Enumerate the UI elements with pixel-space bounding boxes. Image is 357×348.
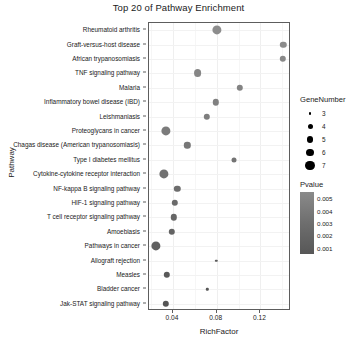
gridline-vertical [217,23,218,309]
gene-number-legend-item: 6 [300,146,346,159]
pvalue-legend-label: 0.003 [317,220,332,227]
gene-number-legend-label: 5 [322,136,326,143]
gene-number-legend-item: 5 [300,133,346,146]
y-axis-tick-label: Type I diabetes mellitus [73,155,140,162]
x-axis-tick-label: 0.04 [166,314,179,321]
y-axis-tick-label: T cell receptor signaling pathway [47,213,140,220]
gene-number-legend-item: 3 [300,107,346,120]
y-axis-tick-mark [143,216,146,217]
gridline-vertical-minor [195,23,196,309]
gridline-horizontal [149,73,289,74]
gridline-horizontal [149,189,289,190]
y-axis-tick-mark [143,230,146,231]
pvalue-legend-label: 0.002 [317,232,332,239]
data-point [163,301,169,307]
data-point [164,272,170,278]
data-point [231,157,236,162]
gene-number-legend-dot [300,161,320,170]
y-axis-tick-label: Jak-STAT signaling pathway [60,299,140,306]
data-point [212,99,218,105]
y-axis-tick-label: Cytokine-cytokine receptor interaction [33,170,140,177]
y-axis-tick-mark [143,259,146,260]
y-axis-tick-label: HIF-1 signaling pathway [71,199,140,206]
x-axis-title: RichFactor [148,327,290,336]
y-axis-labels: Rheumatoid arthritisGraft-versus-host di… [0,22,146,310]
gridline-horizontal [149,261,289,262]
data-point [204,113,210,119]
y-axis-tick-mark [143,144,146,145]
gene-number-legend-dot [300,124,320,129]
y-axis-tick-mark [143,130,146,131]
y-axis-tick-mark [143,173,146,174]
gridline-horizontal [149,102,289,103]
gridline-vertical-minor [282,23,283,309]
gridline-horizontal [149,160,289,161]
y-axis-tick-label: Inflammatory bowel disease (IBD) [44,98,140,105]
gridline-horizontal [149,289,289,290]
gridline-vertical-minor [151,23,152,309]
data-point [152,242,161,251]
gene-number-legend-dot [300,136,320,142]
gridline-vertical [260,23,261,309]
gene-number-legend-label: 7 [322,162,326,169]
pvalue-legend: Pvalue 0.0050.0040.0030.0020.001 [300,180,351,254]
plot-panel [148,22,290,310]
data-point [280,56,286,62]
y-axis-tick-label: Malaria [119,83,140,90]
x-axis-tick-mark [259,310,260,313]
y-axis-tick-label: Chagas disease (American trypanosomiasis… [13,141,140,148]
y-axis-tick-mark [143,288,146,289]
pvalue-legend-label: 0.001 [317,244,332,251]
data-point [174,185,180,191]
x-axis-tick-mark [172,310,173,313]
data-point [280,41,286,47]
y-axis-tick-mark [143,302,146,303]
pvalue-gradient-bar [300,192,314,254]
gene-number-legend-item: 7 [300,159,346,172]
x-axis-tick-mark [216,310,217,313]
gene-number-legend-item: 4 [300,120,346,133]
gridline-horizontal [149,174,289,175]
y-axis-tick-mark [143,158,146,159]
y-axis-tick-label: Rheumatoid arthritis [83,26,140,33]
y-axis-tick-label: African trypanosomiasis [72,55,140,62]
y-axis-tick-mark [143,29,146,30]
gridline-horizontal [149,88,289,89]
pvalue-legend-label: 0.004 [317,207,332,214]
y-axis-tick-mark [143,58,146,59]
gene-number-legend-label: 6 [322,149,326,156]
data-point [194,69,202,77]
data-point [169,229,175,235]
y-axis-tick-label: NF-kappa B signaling pathway [53,184,140,191]
gridline-horizontal [149,203,289,204]
y-axis-tick-label: Measles [116,271,140,278]
y-axis-tick-label: Leishmaniasis [100,112,141,119]
pvalue-tick-labels: 0.0050.0040.0030.0020.001 [317,192,351,254]
data-point [160,170,169,179]
chart-title: Top 20 of Pathway Enrichment [0,2,357,13]
y-axis-tick-label: Bladder cancer [97,285,140,292]
y-axis-tick-mark [143,187,146,188]
gridline-horizontal [149,59,289,60]
gene-number-legend: GeneNumber 34567 [300,95,346,172]
y-axis-tick-label: TNF signaling pathway [75,69,140,76]
y-axis-tick-label: Graft-versus-host disease [67,40,140,47]
y-axis-tick-mark [143,245,146,246]
pvalue-legend-label: 0.005 [317,195,332,202]
gridline-horizontal [149,275,289,276]
data-point [184,142,190,148]
y-axis-tick-mark [143,86,146,87]
y-axis-tick-mark [143,115,146,116]
gene-number-legend-label: 4 [322,123,326,130]
y-axis-tick-mark [143,202,146,203]
gene-number-legend-dot [300,149,320,157]
y-axis-tick-mark [143,101,146,102]
x-axis-tick-label: 0.12 [253,314,266,321]
gene-number-legend-title: GeneNumber [300,95,346,104]
y-axis-tick-mark [143,72,146,73]
x-axis-tick-label: 0.08 [209,314,222,321]
data-point [236,85,242,91]
y-axis-tick-label: Pathways in cancer [85,242,140,249]
y-axis-tick-mark [143,43,146,44]
gridline-horizontal [149,145,289,146]
